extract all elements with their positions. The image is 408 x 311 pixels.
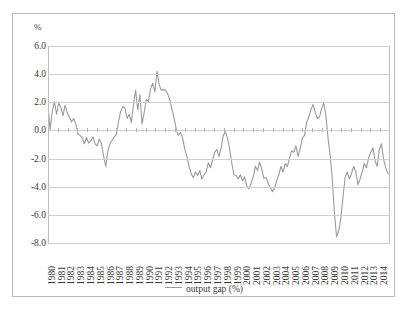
x-tick-mark — [283, 128, 284, 132]
gridline — [48, 46, 390, 47]
x-tick-mark — [214, 128, 215, 132]
y-tick-label: -4.0 — [12, 182, 46, 192]
x-tick-mark — [155, 128, 156, 132]
x-tick-mark — [331, 128, 332, 132]
gridline — [48, 187, 390, 188]
y-tick-label: 0.0 — [12, 125, 46, 135]
x-tick-mark — [351, 128, 352, 132]
x-tick-mark — [107, 128, 108, 132]
x-tick-mark — [116, 128, 117, 132]
x-tick-mark — [312, 128, 313, 132]
y-tick-label: -6.0 — [12, 210, 46, 220]
x-tick-mark — [243, 128, 244, 132]
series-line-output-gap — [48, 46, 390, 243]
x-tick-mark — [370, 128, 371, 132]
x-tick-mark — [146, 128, 147, 132]
x-axis-tick-labels: 1980198119821983198419851986198719881989… — [48, 245, 390, 285]
x-tick-mark — [380, 128, 381, 132]
x-tick-mark — [234, 128, 235, 132]
y-axis-line — [48, 46, 49, 243]
x-tick-mark — [302, 128, 303, 132]
legend-swatch-output-gap — [165, 287, 182, 288]
gridline — [48, 215, 390, 216]
y-axis-tick-labels: 6.04.02.00.0-2.0-4.0-6.0-8.0 — [10, 0, 46, 311]
gridline — [48, 130, 390, 131]
x-tick-mark — [253, 128, 254, 132]
x-tick-mark — [77, 128, 78, 132]
legend-label-output-gap: output gap (%) — [186, 284, 243, 294]
x-tick-mark — [185, 128, 186, 132]
gridline — [48, 243, 390, 244]
gridline — [48, 74, 390, 75]
x-tick-mark — [126, 128, 127, 132]
x-tick-mark — [175, 128, 176, 132]
plot-area — [48, 46, 390, 243]
chart-figure: % 6.04.02.00.0-2.0-4.0-6.0-8.0 198019811… — [0, 0, 408, 311]
x-tick-mark — [136, 128, 137, 132]
y-tick-label: 6.0 — [12, 41, 46, 51]
x-tick-mark — [87, 128, 88, 132]
x-tick-mark — [204, 128, 205, 132]
x-tick-mark — [195, 128, 196, 132]
x-tick-mark — [165, 128, 166, 132]
x-tick-mark — [361, 128, 362, 132]
x-tick-mark — [97, 128, 98, 132]
x-tick-mark — [58, 128, 59, 132]
series-path — [48, 71, 390, 236]
chart-legend: output gap (%) — [0, 283, 408, 294]
x-tick-mark — [48, 128, 49, 132]
gridline — [48, 159, 390, 160]
y-tick-label: -8.0 — [12, 238, 46, 248]
y-tick-label: 2.0 — [12, 97, 46, 107]
x-tick-mark — [224, 128, 225, 132]
y-tick-label: -2.0 — [12, 154, 46, 164]
x-tick-mark — [292, 128, 293, 132]
x-tick-mark — [273, 128, 274, 132]
x-tick-mark — [263, 128, 264, 132]
plot-right-border — [389, 46, 390, 243]
plot-wrapper: % 6.04.02.00.0-2.0-4.0-6.0-8.0 198019811… — [0, 0, 408, 311]
x-tick-mark — [341, 128, 342, 132]
x-tick-mark — [322, 128, 323, 132]
x-tick-mark — [68, 128, 69, 132]
y-tick-label: 4.0 — [12, 69, 46, 79]
gridline — [48, 102, 390, 103]
